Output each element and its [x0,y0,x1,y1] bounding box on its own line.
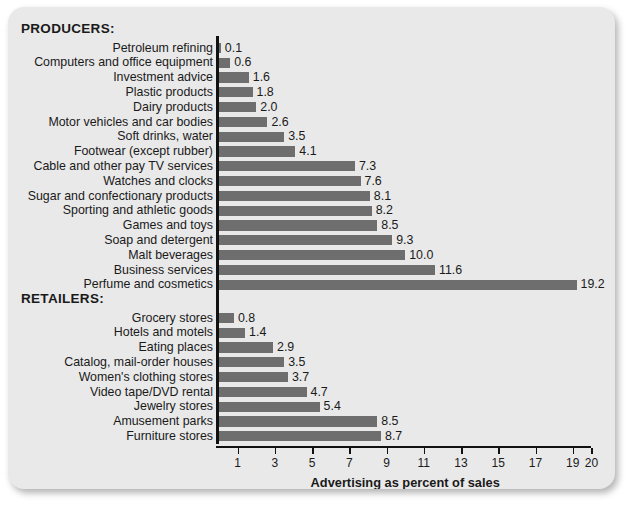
bar-value-label: 4.1 [299,144,316,159]
bar-row-label: Soap and detergent [13,233,213,248]
bar-row: Footwear (except rubber)4.1 [8,144,615,159]
bar [219,357,284,367]
x-axis-tick [349,448,351,454]
bar [219,402,320,412]
x-axis-tick-label: 20 [571,456,611,470]
bar [219,416,377,426]
bar-value-label: 9.3 [396,233,413,248]
x-axis-tick [573,448,575,454]
bar-row: Catalog, mail-order houses3.5 [8,355,615,370]
y-axis-line [216,36,219,444]
bar [219,235,392,245]
bar-row-label: Games and toys [13,218,213,233]
bar [219,72,249,82]
bar [219,220,377,230]
bar-value-label: 0.1 [225,41,242,56]
bar-row-label: Cable and other pay TV services [13,159,213,174]
bar [219,342,273,352]
x-axis-tick [238,448,240,454]
bar-value-label: 8.5 [381,218,398,233]
bar [219,161,355,171]
x-axis-title: Advertising as percent of sales [219,475,591,489]
bar-row-label: Computers and office equipment [13,55,213,70]
bar-value-label: 3.7 [292,370,309,385]
bar-row-label: Amusement parks [13,414,213,429]
bar-row: Grocery stores0.8 [8,311,615,326]
x-axis-tick [591,448,593,454]
bar-row: Cable and other pay TV services7.3 [8,159,615,174]
bar [219,265,435,275]
bar [219,206,372,216]
bar [219,328,245,338]
x-axis-tick [498,448,500,454]
bar-row: Computers and office equipment0.6 [8,55,615,70]
x-axis-tick-label: 1 [218,456,258,470]
bar-row-label: Eating places [13,340,213,355]
bar [219,372,288,382]
bar-value-label: 1.6 [253,70,270,85]
x-axis-tick-label: 9 [367,456,407,470]
bar-row: Plastic products1.8 [8,85,615,100]
bar-value-label: 0.6 [234,55,251,70]
bar-row-label: Catalog, mail-order houses [13,355,213,370]
bar-row-label: Hotels and motels [13,325,213,340]
x-axis-tick-label: 17 [516,456,556,470]
bar-row: Furniture stores8.7 [8,429,615,444]
bar-value-label: 5.4 [324,399,341,414]
bar-row: Watches and clocks7.6 [8,174,615,189]
bar-row-label: Petroleum refining [13,41,213,56]
bar-row: Hotels and motels1.4 [8,325,615,340]
x-axis-tick-label: 15 [478,456,518,470]
bar-value-label: 2.9 [277,340,294,355]
x-axis-tick [387,448,389,454]
bar-row-label: Dairy products [13,100,213,115]
bar-value-label: 11.6 [439,263,462,278]
bar [219,280,577,290]
section-header-retailers: RETAILERS: [21,291,104,306]
bar-row: Business services11.6 [8,263,615,278]
bar-row: Malt beverages10.0 [8,248,615,263]
bar-row: Eating places2.9 [8,340,615,355]
bar-value-label: 1.4 [249,325,266,340]
x-axis-tick [275,448,277,454]
bar-row: Jewelry stores5.4 [8,399,615,414]
bar-row-label: Grocery stores [13,311,213,326]
bar-row: Amusement parks8.5 [8,414,615,429]
bar-row: Women's clothing stores3.7 [8,370,615,385]
bar-row-label: Malt beverages [13,248,213,263]
bar [219,250,405,260]
bar [219,146,295,156]
chart-card: PRODUCERS:Petroleum refining0.1Computers… [8,7,615,489]
bar-row: Sporting and athletic goods8.2 [8,203,615,218]
bar-value-label: 8.7 [385,429,402,444]
x-axis-tick-label: 5 [292,456,332,470]
bar [219,87,253,97]
bar-value-label: 1.8 [257,85,274,100]
bar [219,313,234,323]
bar-row-label: Soft drinks, water [13,129,213,144]
bar-row: Games and toys8.5 [8,218,615,233]
bar-value-label: 4.7 [311,385,328,400]
bar-value-label: 0.8 [238,311,255,326]
bar [219,43,221,53]
bar-row-label: Watches and clocks [13,174,213,189]
bar-row-label: Sporting and athletic goods [13,203,213,218]
bar-row-label: Plastic products [13,85,213,100]
x-axis-tick-label: 11 [404,456,444,470]
bar-row-label: Business services [13,263,213,278]
bar-row-label: Footwear (except rubber) [13,144,213,159]
bar-row: Soap and detergent9.3 [8,233,615,248]
bar-value-label: 8.5 [381,414,398,429]
bar-row-label: Furniture stores [13,429,213,444]
bar [219,176,361,186]
bar-row-label: Perfume and cosmetics [13,277,213,292]
bar-row-label: Sugar and confectionary products [13,189,213,204]
bar [219,102,256,112]
bar-row: Dairy products2.0 [8,100,615,115]
bar-value-label: 7.6 [365,174,382,189]
bar [219,191,370,201]
x-axis-tick [312,448,314,454]
x-axis-tick-label: 13 [441,456,481,470]
bar [219,117,267,127]
x-axis-tick [536,448,538,454]
